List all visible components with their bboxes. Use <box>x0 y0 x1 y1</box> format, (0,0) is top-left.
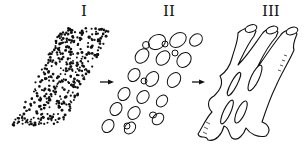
arrow-2-icon <box>192 80 205 85</box>
stage-1-dots <box>12 27 110 127</box>
diagram-canvas <box>0 0 307 150</box>
arrow-1-icon <box>100 80 114 85</box>
stage-2-granules <box>99 30 204 137</box>
stage-3-network <box>198 23 299 140</box>
